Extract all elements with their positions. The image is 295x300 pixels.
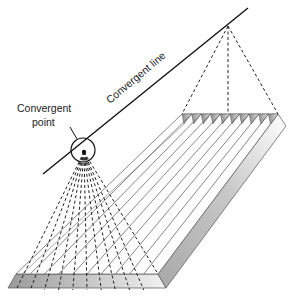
convergent-point-leader	[70, 127, 77, 139]
convergent-point-dot	[82, 150, 86, 154]
convergent-point-label-line2: point	[32, 116, 55, 128]
convergent-point-label-line1: Convergent	[17, 102, 71, 114]
apex-rays	[182, 26, 278, 114]
convergent-line-label: Convergent line	[104, 49, 168, 106]
convergent-projection-diagram: Convergent line Convergent point	[0, 0, 295, 300]
